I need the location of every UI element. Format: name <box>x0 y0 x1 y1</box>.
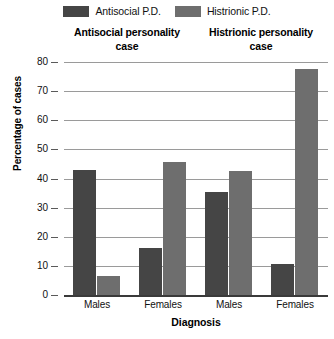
y-tick-label: 20 <box>37 231 48 242</box>
y-tick-label: 0 <box>42 289 48 300</box>
y-tick-label: 80 <box>37 56 48 67</box>
bar <box>205 192 228 295</box>
x-axis-tick-labels: MalesFemalesMalesFemales <box>64 299 328 315</box>
y-tick-mark <box>51 120 58 121</box>
x-tick-label: Females <box>262 299 328 315</box>
y-tick-mark <box>51 149 58 150</box>
bar <box>97 276 120 295</box>
y-tick-label: 10 <box>37 260 48 271</box>
y-tick-label: 50 <box>37 143 48 154</box>
bar <box>163 162 186 295</box>
x-tick-label: Males <box>196 299 262 315</box>
y-tick-mark <box>51 295 58 296</box>
y-tick-label: 60 <box>37 114 48 125</box>
y-tick-label: 70 <box>37 85 48 96</box>
y-axis-tick-labels: 01020304050607080 <box>0 62 58 295</box>
y-tick-mark <box>51 237 58 238</box>
bar <box>139 248 162 295</box>
y-tick-mark <box>51 179 58 180</box>
plot-area: 01020304050607080 <box>0 0 334 339</box>
y-tick-label: 30 <box>37 202 48 213</box>
bar <box>229 171 252 295</box>
x-axis-title: Diagnosis <box>64 316 328 328</box>
y-tick-mark <box>51 266 58 267</box>
bar <box>295 69 318 295</box>
bar-series-container <box>64 62 328 295</box>
y-tick-mark <box>51 208 58 209</box>
x-tick-label: Females <box>130 299 196 315</box>
y-tick-label: 40 <box>37 173 48 184</box>
y-tick-mark <box>51 62 58 63</box>
bar <box>73 170 96 295</box>
bar <box>271 264 294 295</box>
y-tick-mark <box>51 91 58 92</box>
x-axis-line <box>64 295 328 297</box>
x-tick-label: Males <box>64 299 130 315</box>
